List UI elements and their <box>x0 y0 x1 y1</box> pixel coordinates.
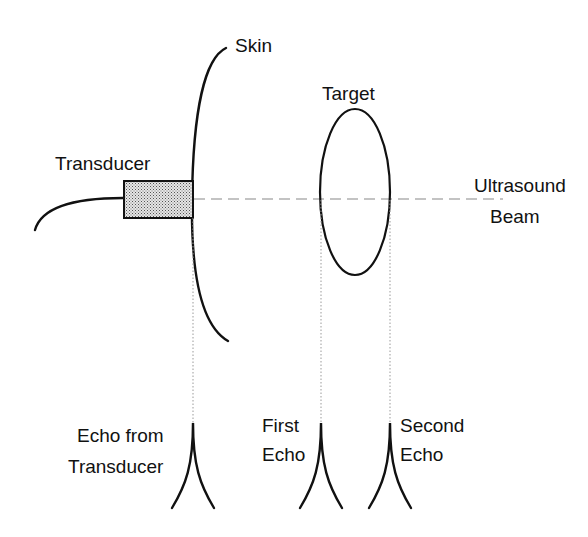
second-echo-label-line1: Second <box>400 415 464 436</box>
transducer-label: Transducer <box>55 153 151 174</box>
target-label: Target <box>322 83 376 104</box>
skin-label: Skin <box>235 35 272 56</box>
transducer-cable <box>35 198 123 230</box>
echo-transducer-label-line1: Echo from <box>77 425 164 446</box>
first-echo-spike <box>300 423 342 508</box>
first-echo-label-line2: Echo <box>262 444 305 465</box>
ultrasound-diagram: Skin Transducer Ultrasound Beam Target E… <box>0 0 588 537</box>
transducer-body <box>124 181 193 218</box>
echo-transducer-label-line2: Transducer <box>68 456 164 477</box>
echo-transducer-spike <box>172 423 214 508</box>
first-echo-label-line1: First <box>262 415 300 436</box>
beam-label-line1: Ultrasound <box>474 175 566 196</box>
second-echo-label-line2: Echo <box>400 444 443 465</box>
target-ellipse <box>320 109 390 275</box>
beam-label-line2: Beam <box>490 206 540 227</box>
skin-curve <box>192 48 228 341</box>
